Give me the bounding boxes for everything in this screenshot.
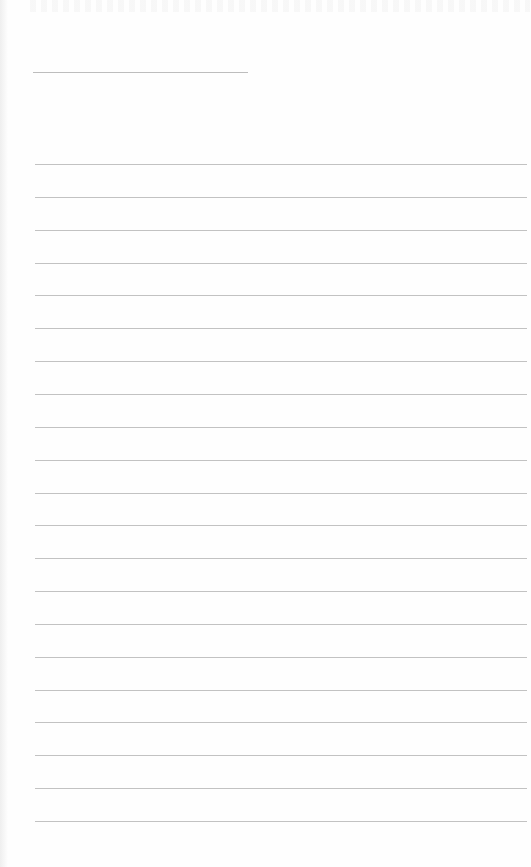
ruled-line [35,493,527,494]
ruled-line [35,197,527,198]
ruled-line [35,690,527,691]
ruled-line [35,755,527,756]
ruled-line [35,591,527,592]
ruled-line [35,164,527,165]
ruled-line [35,394,527,395]
ruled-line [35,821,527,822]
ruled-line [35,295,527,296]
ruled-line [35,230,527,231]
bleed-through-text [30,0,530,12]
ruled-line [35,460,527,461]
ruled-line [35,361,527,362]
page-edge-shadow [0,0,8,867]
ruled-line [35,263,527,264]
ruled-line [35,624,527,625]
lined-page [0,0,531,867]
ruled-line [35,328,527,329]
ruled-line [35,558,527,559]
ruled-line [35,427,527,428]
ruled-line [35,525,527,526]
ruled-line [35,657,527,658]
ruled-line [35,788,527,789]
ruled-line [35,722,527,723]
heading-line [33,72,248,73]
